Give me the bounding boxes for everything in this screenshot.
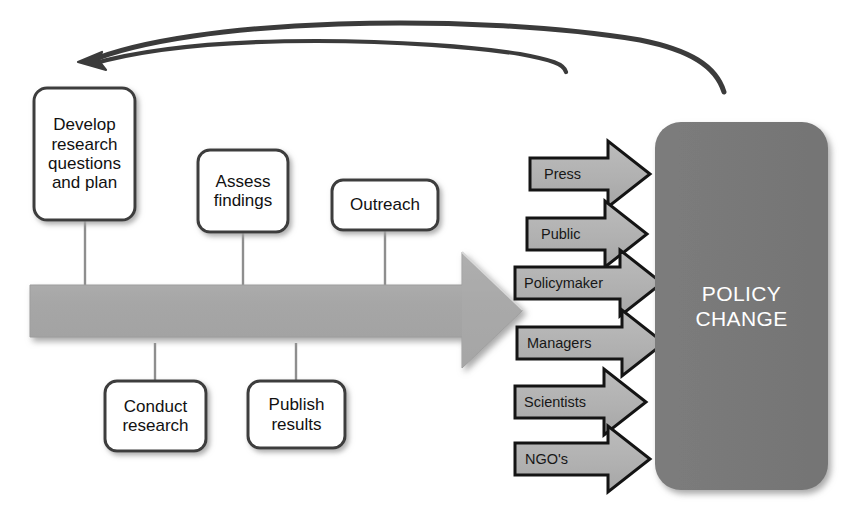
- diagram-canvas: [0, 0, 852, 512]
- outcome-box-policy-change[interactable]: [655, 122, 828, 490]
- channel-arrow-ngos[interactable]: [515, 426, 650, 492]
- stage-box-outreach[interactable]: [332, 180, 438, 230]
- channel-arrows: [515, 141, 664, 492]
- stage-box-develop[interactable]: [34, 88, 135, 220]
- stage-boxes-below: [105, 381, 345, 451]
- stage-box-assess[interactable]: [198, 150, 288, 232]
- channel-arrow-press[interactable]: [530, 141, 650, 207]
- stage-box-publish[interactable]: [248, 381, 345, 448]
- channel-arrow-scientists[interactable]: [515, 369, 646, 435]
- main-process-arrow: [30, 252, 523, 368]
- process-flow-diagram: Develop research questions and plan Asse…: [0, 0, 852, 512]
- stage-boxes-above: [34, 88, 438, 232]
- feedback-loop-short: [92, 41, 566, 72]
- stage-box-conduct[interactable]: [105, 381, 206, 451]
- feedback-loop-long: [88, 23, 724, 92]
- channel-arrow-managers[interactable]: [517, 310, 664, 376]
- feedback-curves: [78, 23, 724, 92]
- channel-arrow-policymaker[interactable]: [515, 250, 662, 316]
